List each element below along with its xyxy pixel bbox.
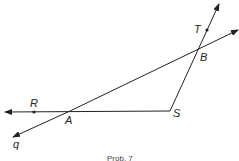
line-q [13, 111, 70, 137]
point-T [205, 28, 208, 31]
ray-ST [170, 4, 219, 111]
line-q-upper [70, 30, 238, 111]
label-S: S [173, 108, 180, 119]
label-A: A [65, 115, 72, 126]
label-B: B [200, 52, 207, 63]
figure-caption: Prob. 7 [107, 155, 133, 161]
label-q: q [13, 139, 19, 150]
label-R: R [30, 98, 38, 109]
geometry-figure [0, 0, 239, 161]
ray-SR [5, 111, 170, 112]
point-R [32, 110, 35, 113]
label-T: T [194, 24, 201, 35]
